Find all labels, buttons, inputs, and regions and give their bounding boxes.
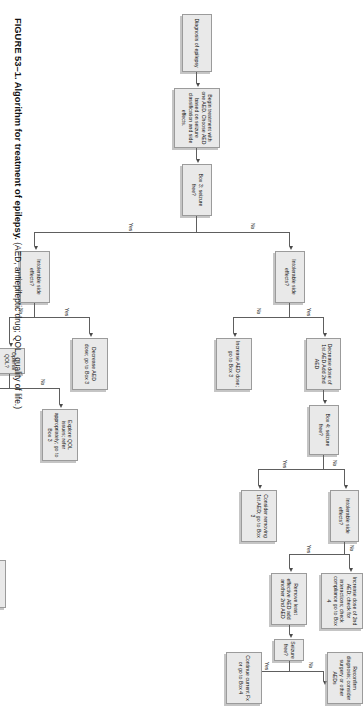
arrow-box4-yes <box>258 485 262 489</box>
node-box3-label: Box 3: seizure free? <box>190 167 203 213</box>
edge-se-bot-stub <box>34 303 35 317</box>
node-consider-removing-1st-label: Consider removing 1st AED; go to Box 3 <box>249 493 269 539</box>
edge-se-box4-yes <box>289 554 290 568</box>
edge-qol-no <box>59 388 60 404</box>
label-sf-right-yes: Yes <box>264 662 270 670</box>
arrow-sf-right-no <box>323 681 327 685</box>
node-explore-qol: Explore QOL issues; refer appropriately;… <box>42 409 78 461</box>
node-reconfirm-diagnosis: Reconfirm diagnosis; consider surgery or… <box>327 652 363 704</box>
node-side-effects-box4: Intolerable side effects? <box>330 490 359 542</box>
node-reconfirm-diagnosis-label: Reconfirm diagnosis; consider surgery or… <box>332 655 358 701</box>
node-diagnosis-label: Diagnosis of epilepsy <box>194 18 201 67</box>
edge-se-top-split <box>234 317 324 318</box>
figure-caption-legend: (AED, antiepileptic drug; QOL, quality o… <box>13 242 23 409</box>
label-se-box4-no: No <box>349 545 355 551</box>
label-qol-no: No <box>40 379 46 385</box>
arrow-decrease1st-to-box4 <box>323 400 327 404</box>
node-decrease-1st-add-2nd-label: Decrease dose of 1st AED Add 2nd AED <box>314 341 334 387</box>
node-increase-aed-dose-label: Increase AED dose; go to Box 3 <box>227 341 240 387</box>
edge-box4-no <box>344 469 345 485</box>
edge-sf-right-no <box>323 671 324 681</box>
node-decrease-1st-add-2nd: Decrease dose of 1st AED Add 2nd AED <box>306 338 341 390</box>
arrow-se-bot-no <box>9 343 13 347</box>
node-diagnosis: Diagnosis of epilepsy <box>182 14 212 72</box>
label-box4-no: No <box>332 460 338 466</box>
edge-diagnosis-to-begin <box>196 72 197 83</box>
figure-caption: FIGURE 53–1. Algorithm for treatment of … <box>13 18 24 690</box>
arrow-se-box4-yes <box>289 568 293 572</box>
label-se-box4-yes: Yes <box>306 545 312 553</box>
label-box3-yes: Yes <box>128 223 134 231</box>
arrow-se-box4-no <box>349 568 353 572</box>
node-seizure-free-right-label: Seizure free? <box>282 641 295 659</box>
node-side-effects-bottom: Intolerable side effects? <box>20 251 50 303</box>
edge-se-top-no <box>233 317 234 333</box>
node-go-to-box3: Go to Box 3 <box>0 560 6 608</box>
label-box4-yes: Yes <box>282 460 288 468</box>
arrow-box3-yes-to-se <box>34 246 38 250</box>
arrow-begin-to-box3 <box>196 159 200 163</box>
label-se-top-yes: Yes <box>306 308 312 316</box>
arrow-box4-no <box>344 485 348 489</box>
node-continue-current-fx-label: Continue current Fx or go to Box 4 <box>237 655 250 701</box>
node-decrease-aed-dose-label: Decrease AED dose; go to Box 3 <box>83 341 96 387</box>
edge-box4-stub <box>323 455 324 469</box>
label-box3-no: No <box>250 223 256 229</box>
edge-box3-split-vertical <box>35 232 290 233</box>
arrow-diagnosis-to-begin <box>196 83 200 87</box>
node-side-effects-top-label: Intolerable side effects? <box>283 254 296 300</box>
node-side-effects-box4-label: Intolerable side effects? <box>338 493 351 539</box>
node-increase-aed-dose: Increase AED dose; go to Box 3 <box>216 338 252 390</box>
arrow-se-bot-yes <box>89 333 93 337</box>
edge-sf-right-stub <box>289 661 290 671</box>
edge-se-box4-split <box>290 554 350 555</box>
edge-box4-split <box>259 469 345 470</box>
node-increase-2nd-aed: Increase dose of 2nd AED; check for inte… <box>321 573 363 629</box>
node-begin-treatment: Begin treatment with one AED. Choose AED… <box>174 88 220 148</box>
edge-se-box4-stub <box>344 542 345 554</box>
edge-se-bot-no <box>9 317 10 343</box>
node-begin-treatment-label: Begin treatment with one AED. Choose AED… <box>181 91 214 145</box>
edge-se-top-stub <box>289 303 290 317</box>
node-explore-qol-label: Explore QOL issues; refer appropriately;… <box>47 412 73 458</box>
label-se-top-no: No <box>256 308 262 314</box>
edge-begin-to-box3 <box>196 148 197 159</box>
edge-box4-yes <box>258 469 259 485</box>
edge-se-top-yes <box>323 317 324 333</box>
node-remove-least-effective: Remove least effective AED add another 2… <box>271 573 307 625</box>
edge-decrease1st-to-box4 <box>323 390 324 400</box>
node-consider-removing-1st: Consider removing 1st AED; go to Box 3 <box>241 490 277 542</box>
edge-qol-split <box>0 388 60 389</box>
node-seizure-free-right: Seizure free? <box>274 639 304 661</box>
node-side-effects-bottom-label: Intolerable side effects? <box>28 254 41 300</box>
arrow-box3-no-to-se <box>289 246 293 250</box>
node-decrease-aed-dose: Decrease AED dose; go to Box 3 <box>72 338 108 390</box>
edge-box3-yes-to-se <box>34 232 35 246</box>
arrow-remove-to-sf <box>289 634 293 638</box>
label-se-bot-yes: Yes <box>64 308 70 316</box>
arrow-se-top-no <box>233 333 237 337</box>
arrow-se-top-yes <box>323 333 327 337</box>
edge-se-bot-yes <box>89 317 90 333</box>
edge-se-box4-no <box>349 554 350 568</box>
node-box4-label: Box 4: seizure free? <box>317 408 330 452</box>
node-box4: Box 4: seizure free? <box>309 405 339 455</box>
node-increase-2nd-aed-label: Increase dose of 2nd AED; check for inte… <box>326 576 359 626</box>
label-sf-right-no: No <box>308 662 314 668</box>
edge-box3-stub <box>196 216 197 232</box>
node-side-effects-top: Intolerable side effects? <box>275 251 305 303</box>
edge-box3-no-to-se <box>289 232 290 246</box>
node-remove-least-effective-label: Remove least effective AED add another 2… <box>279 576 299 622</box>
node-continue-current-fx: Continue current Fx or go to Box 4 <box>226 652 262 704</box>
figure-caption-title: FIGURE 53–1. Algorithm for treatment of … <box>13 18 24 240</box>
edge-remove-to-sf <box>289 625 290 634</box>
node-box3: Box 3: seizure free? <box>182 164 212 216</box>
arrow-qol-no <box>59 404 63 408</box>
edge-qol-stub <box>9 374 10 388</box>
